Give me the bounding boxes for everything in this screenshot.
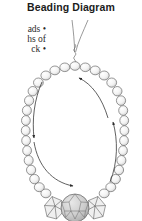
direction-arrow-top (79, 78, 108, 118)
beading-diagram-illustration (0, 0, 142, 221)
direction-arrows (33, 78, 116, 186)
direction-arrow-bottom (34, 142, 73, 186)
beading-diagram-page: Beading Diagram ads • hs of ck • (0, 0, 142, 221)
focal-bead-icon (61, 194, 89, 221)
thread-tails-icon (72, 20, 88, 52)
bead-loop (21, 62, 129, 198)
